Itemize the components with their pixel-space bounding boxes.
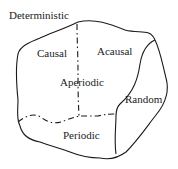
label-deterministic: Deterministic xyxy=(9,10,69,21)
periodic-divider xyxy=(18,114,116,123)
label-causal: Causal xyxy=(37,48,67,59)
causal-acausal-divider xyxy=(77,24,79,116)
label-acausal: Acausal xyxy=(97,46,132,57)
label-random: Random xyxy=(125,94,162,105)
label-aperiodic: Aperiodic xyxy=(60,77,104,88)
label-periodic: Periodic xyxy=(63,130,100,141)
